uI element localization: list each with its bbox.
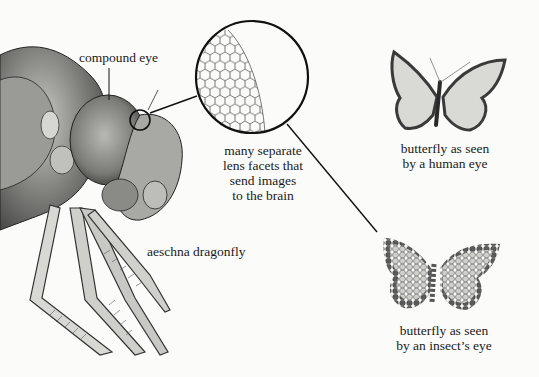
dragonfly-label: aeschna dragonfly — [147, 244, 246, 259]
human-view-line-2: by a human eye — [390, 156, 500, 171]
lens-facets-line-1: many separate — [213, 143, 313, 158]
butterfly-human-view — [392, 52, 505, 130]
compound-eye-label: compound eye — [79, 50, 158, 65]
lens-facets-line-3: send images — [213, 173, 313, 188]
magnified-facets — [195, 21, 308, 133]
dragonfly-illustration — [0, 47, 182, 355]
human-view-label: butterfly as seen by a human eye — [390, 141, 500, 171]
dragonfly-text: aeschna dragonfly — [147, 244, 246, 259]
insect-view-line-2: by an insect’s eye — [384, 338, 504, 353]
human-view-line-1: butterfly as seen — [390, 141, 500, 156]
lens-facets-label: many separate lens facets that send imag… — [213, 143, 313, 203]
lens-facets-line-4: to the brain — [213, 188, 313, 203]
lens-facets-line-2: lens facets that — [213, 158, 313, 173]
insect-view-label: butterfly as seen by an insect’s eye — [384, 323, 504, 353]
compound-eye-text: compound eye — [79, 50, 158, 65]
insect-view-line-1: butterfly as seen — [384, 323, 504, 338]
butterfly-insect-view — [383, 238, 500, 310]
